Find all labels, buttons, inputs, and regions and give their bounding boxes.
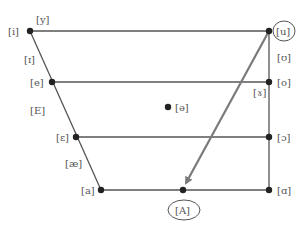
label-upsilon: [ʊ] (277, 52, 291, 63)
dot-o (266, 79, 272, 85)
label-alpha: [ɑ] (277, 185, 291, 196)
dot-schwa (165, 104, 171, 110)
label-epsilon: [ɛ] (56, 132, 69, 143)
label-schwa: [ə] (175, 102, 189, 113)
arrow-u-to-A (186, 31, 269, 183)
label-open-o: [ɔ] (277, 132, 291, 143)
dot-open-o (266, 134, 272, 140)
label-e: [e] (30, 77, 44, 88)
label-ae: [æ] (65, 158, 82, 169)
label-E: [E] (30, 105, 45, 116)
dot-e (49, 79, 55, 85)
label-gamma: [ɤ] (253, 87, 267, 98)
dot-alpha (266, 187, 272, 193)
label-small-cap-i: [ɪ] (24, 54, 35, 65)
dot-u (266, 28, 272, 34)
dot-a (98, 187, 104, 193)
label-A: [A] (175, 205, 190, 216)
dot-i (27, 28, 33, 34)
dot-epsilon (73, 134, 79, 140)
dot-A (180, 187, 186, 193)
label-u: [u] (276, 26, 290, 37)
label-o: [o] (277, 77, 291, 88)
label-y: [y] (36, 14, 50, 25)
vowel-chart: [i] [e] [ɛ] [a] [u] [o] [ɔ] [ɑ] [ə] [A] … (0, 0, 307, 228)
label-i: [i] (8, 26, 19, 37)
label-a: [a] (81, 185, 95, 196)
